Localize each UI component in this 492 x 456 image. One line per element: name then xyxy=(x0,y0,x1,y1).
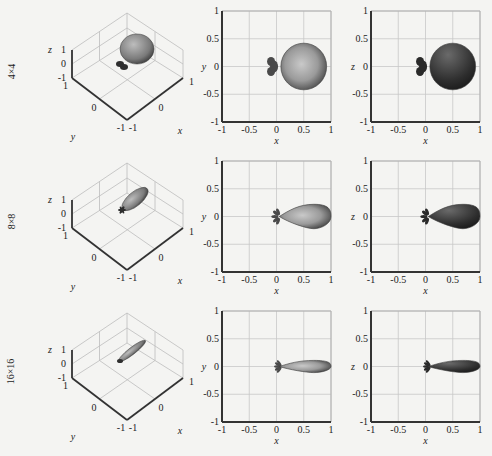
y-tick-label: -0.5 xyxy=(203,88,219,99)
y-tick-label: -1 xyxy=(360,116,368,127)
x-tick-label: 1 xyxy=(478,274,483,285)
y-axis-label: y xyxy=(70,431,76,442)
x-tick-label: -0.5 xyxy=(390,424,406,435)
y-tick-label: -1 xyxy=(117,272,125,283)
x-tick-label: 0 xyxy=(159,102,164,113)
y-tick-label: 1 xyxy=(214,155,219,166)
panel-3d-view: 10-110-1-101yxz xyxy=(47,163,194,292)
y-tick-label: -0.5 xyxy=(203,238,219,249)
main-lobe xyxy=(281,43,327,90)
x-tick-label: -1 xyxy=(218,424,226,435)
x-tick-label: -0.5 xyxy=(241,124,257,135)
z-axis-label: z xyxy=(47,44,52,55)
y-tick-label: 0.5 xyxy=(356,333,369,344)
x-tick-label: 0.5 xyxy=(298,274,311,285)
x-tick-label: 0 xyxy=(274,274,279,285)
y-axis-label: y xyxy=(201,361,207,372)
x-tick-label: 1 xyxy=(329,274,334,285)
y-tick-label: 0 xyxy=(363,211,368,222)
x-tick-label: 1 xyxy=(329,424,334,435)
x-tick-label: 0 xyxy=(423,274,428,285)
y-tick-label: 1 xyxy=(363,5,368,16)
main-lobe xyxy=(279,204,331,228)
y-axis-label: z xyxy=(350,211,355,222)
panel-xz-projection: -1-0.500.5110.50-0.5-1xz xyxy=(350,155,482,296)
z-axis-label: z xyxy=(47,194,52,205)
x-axis-label: x xyxy=(177,125,183,136)
x-tick-label: -0.5 xyxy=(241,424,257,435)
x-tick-label: -0.5 xyxy=(241,274,257,285)
x-tick-label: 0.5 xyxy=(447,274,460,285)
y-tick-label: 0.5 xyxy=(207,333,220,344)
y-axis-label: z xyxy=(350,61,355,72)
y-axis-label: y xyxy=(201,211,207,222)
y-axis-label: z xyxy=(350,361,355,372)
y-tick-label: 0 xyxy=(214,61,219,72)
y-tick-label: -1 xyxy=(117,122,125,133)
x-tick-label: 1 xyxy=(189,226,194,237)
z-tick-label: 1 xyxy=(61,344,66,355)
y-tick-label: -1 xyxy=(211,116,219,127)
z-tick-label: 0 xyxy=(61,208,66,219)
y-tick-label: 1 xyxy=(214,305,219,316)
x-tick-label: 0 xyxy=(423,124,428,135)
x-tick-label: 0 xyxy=(274,124,279,135)
x-axis xyxy=(127,78,183,120)
y-tick-label: 0 xyxy=(92,102,97,113)
panel-xz-projection: -1-0.500.5110.50-0.5-1xz xyxy=(350,305,482,446)
main-lobe xyxy=(428,204,480,228)
y-tick-label: -0.5 xyxy=(352,88,368,99)
side-lobe xyxy=(419,61,427,73)
x-axis xyxy=(127,228,183,270)
x-tick-label: -1 xyxy=(218,274,226,285)
y-tick-label: 0 xyxy=(92,252,97,263)
y-tick-label: -1 xyxy=(360,266,368,277)
y-tick-label: 1 xyxy=(63,380,68,391)
y-tick-label: 1 xyxy=(363,155,368,166)
side-lobe xyxy=(270,61,278,73)
x-axis-label: x xyxy=(177,275,183,286)
x-tick-label: -1 xyxy=(129,272,137,283)
x-tick-label: 1 xyxy=(329,124,334,135)
y-tick-label: 1 xyxy=(63,80,68,91)
x-tick-label: 0 xyxy=(159,402,164,413)
panel-3d-view: 10-110-1-101yxz xyxy=(47,313,194,442)
z-tick-label: 0 xyxy=(61,358,66,369)
main-lobe xyxy=(120,34,154,64)
x-axis-label: x xyxy=(273,135,279,146)
x-axis-label: x xyxy=(422,285,428,296)
x-axis-label: x xyxy=(273,285,279,296)
y-axis-label: y xyxy=(70,281,76,292)
z-tick-label: 0 xyxy=(61,58,66,69)
figure-canvas: 10-110-1-101yxz-1-0.500.5110.50-0.5-1xy-… xyxy=(0,0,492,456)
x-axis-label: x xyxy=(177,425,183,436)
x-tick-label: 0 xyxy=(159,252,164,263)
panel-xy-projection: -1-0.500.5110.50-0.5-1xy xyxy=(201,155,334,296)
y-tick-label: 0.5 xyxy=(207,33,220,44)
x-tick-label: -1 xyxy=(367,274,375,285)
y-axis xyxy=(72,78,127,120)
y-tick-label: -1 xyxy=(117,422,125,433)
y-tick-label: -1 xyxy=(211,266,219,277)
side-lobe xyxy=(117,359,123,363)
x-axis-label: x xyxy=(422,135,428,146)
y-tick-label: -0.5 xyxy=(352,238,368,249)
y-tick-label: 0.5 xyxy=(356,33,369,44)
x-tick-label: 0.5 xyxy=(298,124,311,135)
y-axis xyxy=(72,378,127,420)
y-axis-label: y xyxy=(70,131,76,142)
x-tick-label: -1 xyxy=(367,424,375,435)
side-lobe xyxy=(271,215,278,218)
main-lobe xyxy=(430,43,476,90)
panel-xy-projection: -1-0.500.5110.50-0.5-1xy xyxy=(201,5,334,146)
y-axis-label: y xyxy=(201,61,207,72)
y-tick-label: 1 xyxy=(63,230,68,241)
main-lobe xyxy=(279,360,331,372)
x-axis-label: x xyxy=(422,435,428,446)
x-tick-label: 1 xyxy=(189,76,194,87)
y-tick-label: -1 xyxy=(360,416,368,427)
x-tick-label: -1 xyxy=(129,422,137,433)
y-tick-label: 0 xyxy=(214,361,219,372)
x-tick-label: -0.5 xyxy=(390,274,406,285)
x-axis xyxy=(127,378,183,420)
